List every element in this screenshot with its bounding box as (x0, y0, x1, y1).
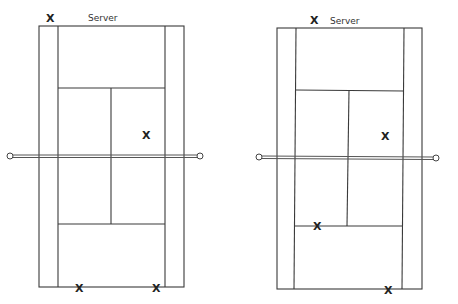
court-left: X Server X X X (7, 12, 203, 295)
tennis-diagram: X Server X X X X Server X X X (0, 0, 458, 304)
server-label: Server (88, 13, 118, 23)
net-post-icon (433, 155, 439, 161)
player-marker-server: X (310, 14, 319, 27)
net-post-icon (7, 153, 13, 159)
player-marker-receiver-partner: X (313, 220, 322, 233)
net-post-icon (197, 153, 203, 159)
player-marker-receiver-partner: X (152, 282, 161, 295)
court-left-net (7, 153, 203, 159)
player-marker-server-partner: X (381, 130, 390, 143)
player-marker-receiver: X (75, 282, 84, 295)
player-marker-server-partner: X (142, 129, 151, 142)
court-right-center-service-line (347, 90, 349, 226)
player-marker-receiver: X (384, 284, 393, 297)
net-post-icon (256, 154, 262, 160)
court-right-service-line-top (296, 90, 404, 91)
player-marker-server: X (46, 12, 55, 25)
court-right: X Server X X X (256, 14, 439, 297)
court-right-singles-sideline-right (402, 28, 404, 289)
server-label: Server (330, 16, 360, 26)
